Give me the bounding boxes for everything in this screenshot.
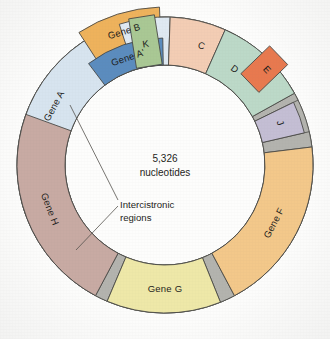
gene-segment-gene-f [212,147,313,296]
gene-segment-gene-h [17,114,118,295]
intercistronic-note-line1: Intercistronic [120,199,175,210]
genome-figure: Gene AGene BCDJGene FGene GGene HGene A'… [0,0,330,339]
intercistronic-note-line2: regions [120,212,152,223]
gene-label-gene-g: Gene G [148,283,182,294]
nucleotide-count: 5,326 [152,153,177,164]
genome-diagram: Gene AGene BCDJGene FGene GGene HGene A'… [0,0,330,339]
leader-upper [70,105,118,200]
nucleotide-unit-label: nucleotides [140,167,191,178]
